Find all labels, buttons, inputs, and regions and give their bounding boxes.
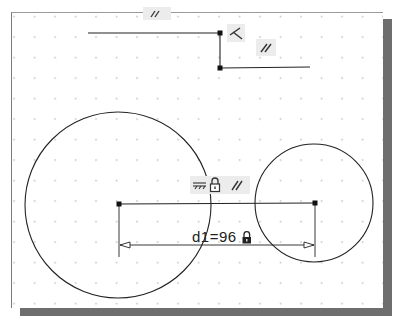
parallel-constraint[interactable] <box>256 39 276 56</box>
center-point-right[interactable] <box>313 201 318 206</box>
sketch-drawing[interactable] <box>0 0 397 322</box>
grid-dots <box>12 13 383 308</box>
parallel-constraint-top[interactable] <box>143 7 171 20</box>
center-line-constraints[interactable] <box>190 176 250 194</box>
center-point-left[interactable] <box>117 202 122 207</box>
endpoint[interactable] <box>218 31 223 36</box>
perpendicular-constraint[interactable] <box>227 24 245 42</box>
dimension-label[interactable]: d1=96 <box>192 229 237 245</box>
endpoint[interactable] <box>218 66 223 71</box>
